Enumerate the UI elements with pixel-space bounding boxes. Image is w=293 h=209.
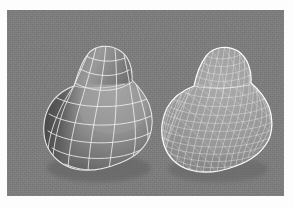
right-object-surface-fill [162,47,272,172]
right-object-dense-triangulated-mesh [150,38,284,188]
figure-panel-container [0,0,293,209]
left-object-coarse-wireframe-surface [25,36,170,186]
figure-image-panel [7,10,284,196]
left-object-shaded-surface [39,41,152,176]
